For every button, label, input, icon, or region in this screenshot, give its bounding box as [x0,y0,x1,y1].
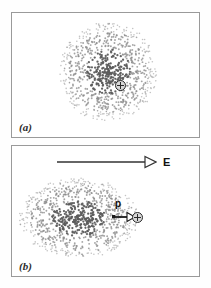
electron-cloud-a [12,13,199,137]
dipole-moment-label: p [115,198,121,209]
electric-field-arrow [57,155,157,169]
figure-root: (a) (b) E p [0,0,211,288]
nucleus-positive-charge-a [115,80,126,91]
panel-label-a: (a) [19,122,32,133]
nucleus-positive-charge-b [132,212,143,223]
electric-field-label: E [163,155,170,169]
panel-a: (a) [11,12,200,138]
panel-label-b: (b) [19,261,32,272]
